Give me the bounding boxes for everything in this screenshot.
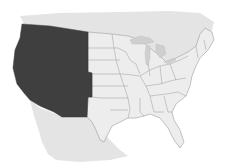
us-map [0,0,228,166]
western-states-region [13,24,92,117]
